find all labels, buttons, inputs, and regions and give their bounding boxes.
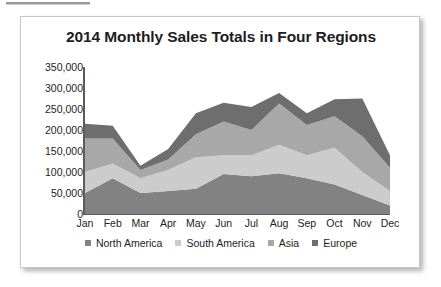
legend-label: Asia	[279, 237, 299, 249]
x-axis-tick: Feb	[104, 217, 122, 229]
legend-label: North America	[96, 237, 163, 249]
legend-label: Europe	[323, 237, 357, 249]
legend-swatch-icon	[268, 240, 274, 246]
x-axis-tick: Jun	[215, 217, 232, 229]
x-axis-tick: Jan	[77, 217, 94, 229]
y-axis-tick: 150,000	[31, 145, 83, 157]
x-axis-tick: Apr	[160, 217, 176, 229]
y-axis-tick: 50,000	[31, 187, 83, 199]
x-axis: JanFebMarAprMayJunJulAugSepOctNovDec	[85, 217, 390, 233]
legend-swatch-icon	[312, 240, 318, 246]
stacked-area-series	[85, 67, 390, 214]
x-axis-tick: Jul	[245, 217, 258, 229]
y-axis-tick: 100,000	[31, 166, 83, 178]
legend-item[interactable]: North America	[85, 237, 163, 249]
x-axis-tick: Dec	[381, 217, 400, 229]
legend-swatch-icon	[85, 240, 91, 246]
x-axis-tick: Aug	[270, 217, 289, 229]
x-axis-tick: Sep	[297, 217, 316, 229]
legend-swatch-icon	[175, 240, 181, 246]
decorative-rule	[6, 2, 90, 5]
y-axis-tick: 200,000	[31, 124, 83, 136]
legend-label: South America	[186, 237, 254, 249]
legend-item[interactable]: South America	[175, 237, 254, 249]
y-axis-tick: 300,000	[31, 82, 83, 94]
chart-legend: North AmericaSouth AmericaAsiaEurope	[21, 237, 421, 249]
x-axis-tick: Mar	[131, 217, 149, 229]
legend-item[interactable]: Asia	[268, 237, 299, 249]
y-axis-tick: 250,000	[31, 103, 83, 115]
chart-card: 2014 Monthly Sales Totals in Four Region…	[20, 16, 420, 268]
y-axis: 050,000100,000150,000200,000250,000300,0…	[31, 65, 83, 217]
x-axis-tick: Oct	[326, 217, 342, 229]
x-axis-tick: Nov	[353, 217, 372, 229]
y-axis-tick: 0	[31, 208, 83, 220]
y-axis-tick: 350,000	[31, 61, 83, 73]
legend-item[interactable]: Europe	[312, 237, 357, 249]
x-axis-tick: May	[186, 217, 206, 229]
chart-plot-area: 050,000100,000150,000200,000250,000300,0…	[21, 17, 421, 269]
